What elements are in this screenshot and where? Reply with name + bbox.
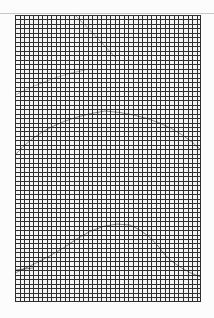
stitch-chart-grid	[15, 15, 201, 302]
top-divider	[0, 13, 214, 14]
page	[0, 0, 214, 318]
